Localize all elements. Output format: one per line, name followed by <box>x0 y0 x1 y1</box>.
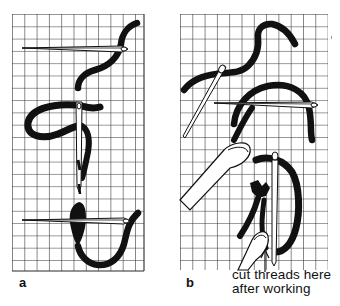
panel-label-b: b <box>186 275 194 290</box>
caption: cut threads here after working <box>232 268 331 296</box>
caption-line-1: cut threads here <box>232 268 331 282</box>
needle-icon <box>76 102 82 192</box>
caption-line-2: after working <box>232 282 331 296</box>
panel-label-a: a <box>19 275 26 290</box>
panel-a <box>12 14 144 271</box>
embroidery-stitch-illustration <box>0 0 340 306</box>
panel-b <box>180 14 332 272</box>
